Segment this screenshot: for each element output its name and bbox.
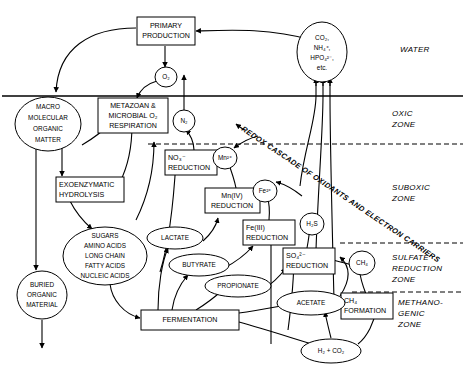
node-mn2plus[interactable]: Mn²⁺ — [213, 147, 237, 169]
node-butyrate[interactable]: BUTYRATE — [169, 254, 229, 276]
node-metazoan-respiration[interactable]: METAZOAN & MICROBIAL O₂ RESPIRATION — [98, 98, 168, 133]
h2s-label: H₂S — [306, 220, 317, 227]
monomers-line-3: LONG CHAIN — [85, 252, 125, 259]
monomers-line-5: NUCLEIC ACIDS — [80, 272, 129, 279]
zone-label-sulfate-line-3: ZONE — [391, 275, 416, 284]
arrow-fermentation-to-butyrate — [172, 275, 188, 310]
lactate-label: LACTATE — [161, 234, 189, 241]
arrow-monomers-to-fermentation — [110, 284, 140, 318]
zone-labels: WATER OXIC ZONE SUBOXIC ZONE SULFATE RED… — [391, 45, 443, 329]
butyrate-label: BUTYRATE — [182, 261, 216, 268]
no3-reduction-line-1: NO₃⁻ — [168, 154, 186, 162]
monomers-line-2: AMINO ACIDS — [84, 242, 126, 249]
co2-nutrients-line-3: HPO₄²⁻, — [310, 54, 334, 61]
zone-label-suboxic-line-1: SUBOXIC — [392, 183, 430, 192]
monomers-line-4: FATTY ACIDS — [85, 262, 125, 269]
macro-line-3: ORGANIC — [33, 125, 63, 132]
node-monomers[interactable]: SUGARS AMINO ACIDS LONG CHAIN FATTY ACID… — [63, 227, 147, 285]
fe3-reduction-line-2: REDUCTION — [246, 234, 288, 242]
zone-label-water: WATER — [400, 45, 430, 54]
arrow-h2s-upward — [276, 182, 302, 196]
buried-line-2: ORGANIC — [27, 291, 57, 298]
co2-nutrients-line-1: CO₂, — [315, 34, 329, 41]
node-n2[interactable]: N₂ — [173, 110, 195, 132]
primary-production-line-2: PRODUCTION — [142, 32, 190, 40]
macro-line-2: MOLECULAR — [28, 114, 68, 121]
node-ch4-formation[interactable]: CH₄ FORMATION — [341, 293, 393, 319]
arrow-no3-to-n2 — [186, 130, 194, 150]
node-mn4-reduction[interactable]: Mn(IV) REDUCTION — [205, 188, 260, 213]
arrow-hydrolysis-to-monomers — [70, 201, 92, 229]
node-acetate[interactable]: ACETATE — [277, 291, 345, 315]
exoenzymatic-hydrolysis-line-2: HYDROLYSIS — [59, 191, 104, 199]
macro-line-4: MATTER — [35, 136, 61, 143]
node-h2-co2[interactable]: H₂ + CO₂ — [301, 339, 361, 363]
node-no3-reduction[interactable]: NO₃⁻ REDUCTION — [165, 150, 217, 175]
o2-label: O₂ — [162, 73, 170, 80]
ch4-label: CH₄ — [356, 259, 368, 266]
node-lactate[interactable]: LACTATE — [147, 227, 203, 249]
metazoan-respiration-line-2: MICROBIAL O₂ — [108, 112, 157, 120]
zone-label-oxic-line-2: ZONE — [391, 120, 416, 129]
co2-nutrients-line-2: NH₄⁺, — [314, 44, 331, 51]
zone-label-methanogenic-line-3: ZONE — [397, 320, 422, 329]
node-fe3-reduction[interactable]: Fe(III) REDUCTION — [243, 220, 295, 245]
so4-reduction-line-2: REDUCTION — [286, 262, 328, 270]
diagenesis-flow-diagram: PRIMARY PRODUCTION METAZOAN & MICROBIAL … — [0, 0, 465, 371]
monomers-line-1: SUGARS — [92, 232, 119, 239]
node-fermentation[interactable]: FERMENTATION — [141, 310, 239, 330]
propionate-label: PROPIONATE — [217, 282, 258, 289]
fe3-reduction-line-1: Fe(III) — [246, 224, 265, 232]
zone-label-methanogenic-line-1: METHANO- — [398, 298, 443, 307]
node-so4-reduction[interactable]: SO₄²⁻ REDUCTION — [283, 248, 335, 274]
arrow-lactate-upward — [203, 218, 218, 241]
arrow-up-to-no3-reduction-a — [136, 142, 154, 220]
zone-label-suboxic-line-2: ZONE — [391, 194, 416, 203]
fe2plus-label: Fe²⁺ — [259, 187, 272, 194]
exoenzymatic-hydrolysis-line-1: EXOENZYMATIC — [59, 181, 114, 189]
co2-nutrients-line-4: etc. — [317, 64, 328, 71]
arrow-up-to-no3-reduction-b — [160, 160, 176, 272]
macro-line-1: MACRO — [36, 103, 60, 110]
node-ch4[interactable]: CH₄ — [349, 251, 375, 275]
node-h2s[interactable]: H₂S — [300, 213, 324, 235]
node-primary-production[interactable]: PRIMARY PRODUCTION — [137, 17, 195, 45]
node-macro-organic-matter[interactable]: MACRO MOLECULAR ORGANIC MATTER — [15, 97, 81, 151]
h2-co2-label: H₂ + CO₂ — [318, 347, 345, 354]
node-buried-organic-material[interactable]: BURIED ORGANIC MATERIAL — [17, 271, 67, 319]
arrow-primary-production-to-macro — [56, 28, 136, 92]
node-o2[interactable]: O₂ — [155, 67, 177, 87]
arrow-up-to-respiration — [120, 125, 132, 182]
arrow-fermentation-to-lactate — [158, 248, 168, 310]
mn2plus-label: Mn²⁺ — [218, 154, 232, 161]
metazoan-respiration-line-1: METAZOAN & — [110, 102, 156, 110]
node-exoenzymatic-hydrolysis[interactable]: EXOENZYMATIC HYDROLYSIS — [56, 177, 124, 202]
arrow-h2co2-to-acetate — [325, 312, 331, 338]
metazoan-respiration-line-3: RESPIRATION — [109, 122, 157, 130]
buried-line-3: MATERIAL — [26, 301, 58, 308]
mn4-reduction-line-1: Mn(IV) — [221, 192, 242, 200]
node-propionate[interactable]: PROPIONATE — [205, 275, 271, 297]
arrow-co2-to-primary-production — [196, 30, 311, 40]
fermentation-label: FERMENTATION — [163, 316, 218, 324]
node-co2-nutrients[interactable]: CO₂, NH₄⁺, HPO₄²⁻, etc. — [297, 22, 347, 82]
ch4-formation-line-1: CH₄ — [344, 297, 357, 305]
zone-label-oxic-line-1: OXIC — [392, 109, 413, 118]
mn4-reduction-line-2: REDUCTION — [211, 202, 253, 210]
diagram-canvas: PRIMARY PRODUCTION METAZOAN & MICROBIAL … — [0, 0, 465, 371]
no3-reduction-line-2: REDUCTION — [168, 164, 210, 172]
buried-line-1: BURIED — [30, 281, 55, 288]
zone-label-methanogenic-line-2: GENIC — [398, 309, 425, 318]
primary-production-line-1: PRIMARY — [150, 22, 182, 30]
so4-reduction-line-1: SO₄²⁻ — [286, 252, 306, 260]
ch4-formation-line-2: FORMATION — [344, 307, 386, 315]
zone-label-sulfate-line-2: REDUCTION — [392, 264, 442, 273]
node-fe2plus[interactable]: Fe²⁺ — [253, 180, 277, 202]
n2-label: N₂ — [180, 117, 188, 124]
acetate-label: ACETATE — [297, 299, 326, 306]
